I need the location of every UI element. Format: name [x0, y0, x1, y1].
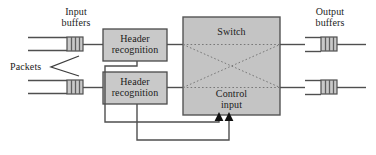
input-link-bottom [28, 81, 103, 94]
output-buffer-bottom-icon [321, 80, 337, 94]
input-buffer-top-icon [67, 37, 83, 51]
output-buffers-label-line2: buffers [300, 17, 360, 28]
hr-bottom-line1: Header [103, 76, 167, 87]
input-buffer-bottom-icon [67, 80, 83, 94]
switch-label: Switch [183, 26, 280, 37]
output-buffers-label: Output buffers [300, 6, 360, 28]
control-input-label: Control input [183, 88, 280, 110]
header-recognition-top-label: Header recognition [103, 33, 167, 55]
input-link-top [28, 38, 103, 51]
hr-bottom-line2: recognition [103, 87, 167, 98]
hr-top-line2: recognition [103, 44, 167, 55]
input-buffers-label-line2: buffers [46, 17, 106, 28]
header-recognition-bottom-label: Header recognition [103, 76, 167, 98]
output-buffers-label-line1: Output [300, 6, 360, 17]
hr-top-line1: Header [103, 33, 167, 44]
packets-label: Packets [10, 61, 52, 72]
control-input-line2: input [183, 99, 280, 110]
packet-switch-diagram: Input buffers Packets Output buffers Hea… [0, 0, 376, 155]
input-buffers-label-line1: Input [46, 6, 106, 17]
packets-pointer-icon [51, 56, 79, 76]
control-input-line1: Control [183, 88, 280, 99]
input-buffers-label: Input buffers [46, 6, 106, 28]
output-buffer-top-icon [321, 37, 337, 51]
